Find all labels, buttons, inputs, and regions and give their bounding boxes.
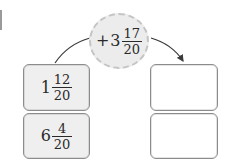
operation-whole: 3 [110, 33, 120, 49]
answer-box-1[interactable] [150, 64, 218, 111]
operation-fraction: 17 20 [122, 27, 143, 56]
outgoing-arrow [151, 38, 183, 61]
input-denominator: 20 [52, 136, 73, 151]
input-fraction: 12 20 [52, 73, 73, 102]
input-value-1: 1 12 20 [41, 73, 73, 102]
input-fraction: 4 20 [52, 122, 73, 151]
answer-box-2[interactable] [150, 113, 218, 159]
operation-numerator: 17 [122, 27, 143, 41]
operation-circle: + 3 17 20 [89, 13, 149, 69]
operation-value: + 3 17 20 [96, 27, 142, 56]
input-box-1: 1 12 20 [23, 64, 90, 111]
input-box-2: 6 4 20 [23, 113, 90, 159]
operation-denominator: 20 [122, 41, 143, 56]
input-denominator: 20 [52, 87, 73, 102]
input-value-2: 6 4 20 [41, 122, 73, 151]
input-numerator: 4 [56, 122, 68, 136]
input-whole: 6 [41, 128, 51, 144]
incoming-arc [55, 38, 90, 63]
input-numerator: 12 [52, 73, 73, 87]
operation-sign: + [96, 33, 109, 49]
input-whole: 1 [41, 80, 51, 96]
